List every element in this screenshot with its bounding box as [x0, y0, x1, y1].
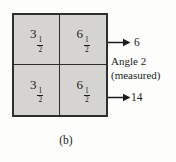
angle-label-line2: (measured)	[111, 69, 160, 83]
grid-cell-bottom-right: 612	[60, 65, 106, 115]
fraction: 12	[37, 36, 43, 54]
fraction-denominator: 2	[85, 96, 89, 104]
cell-value: 312	[30, 76, 43, 105]
whole-number: 6	[76, 26, 83, 41]
quad-grid: 312 612 312 612	[12, 13, 108, 117]
grid-cell-top-left: 312	[14, 15, 60, 65]
figure-b: 312 612 312 612 6 Angle 2 (measured) 14 …	[0, 0, 176, 162]
whole-number: 3	[30, 26, 37, 41]
grid-cell-bottom-left: 312	[14, 65, 60, 115]
cell-value: 612	[76, 25, 89, 54]
grid-cell-top-right: 612	[60, 15, 106, 65]
fraction-denominator: 2	[38, 46, 42, 54]
cell-value: 612	[76, 76, 89, 105]
fraction-denominator: 2	[85, 46, 89, 54]
whole-number: 6	[76, 77, 83, 92]
angle-label: Angle 2 (measured)	[111, 55, 160, 82]
bottom-right-arrow-icon	[108, 93, 131, 102]
top-right-arrow-icon	[108, 38, 131, 47]
fraction: 12	[84, 87, 90, 105]
figure-caption: (b)	[12, 134, 120, 146]
top-measured-value: 6	[134, 37, 140, 49]
bottom-measured-value: 14	[131, 92, 143, 104]
fraction-denominator: 2	[38, 96, 42, 104]
whole-number: 3	[30, 77, 37, 92]
cell-value: 312	[30, 25, 43, 54]
angle-label-line1: Angle 2	[111, 55, 160, 69]
fraction: 12	[37, 87, 43, 105]
fraction: 12	[84, 36, 90, 54]
